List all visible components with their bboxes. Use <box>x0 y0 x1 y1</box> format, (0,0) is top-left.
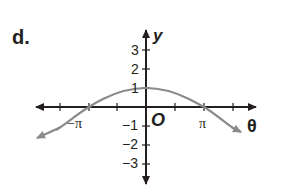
y-axis-label: y <box>153 26 162 46</box>
y-tick-label-3: 3 <box>131 42 139 58</box>
y-tick-label-neg1: −1 <box>122 117 138 133</box>
graph <box>0 0 282 187</box>
y-tick-label-neg2: −2 <box>122 136 138 152</box>
x-tick-label-neg-pi: −π <box>67 116 82 132</box>
y-tick-label-2: 2 <box>131 61 139 77</box>
curve-arrow-left <box>37 128 60 139</box>
y-tick-label-neg3: −3 <box>122 155 138 171</box>
x-tick-label-pi: π <box>199 116 206 132</box>
curve-arrow-right <box>232 128 241 133</box>
origin-label: O <box>151 110 165 131</box>
y-tick-label-1: 1 <box>131 80 139 96</box>
x-axis-label: θ <box>247 116 257 137</box>
